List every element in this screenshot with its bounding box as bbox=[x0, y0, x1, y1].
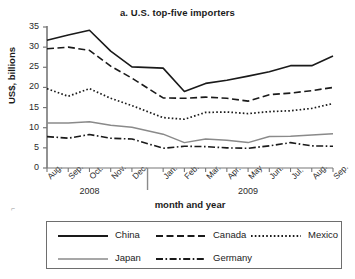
legend: China Canada Mexico Japan Germany bbox=[46, 221, 342, 269]
legend-line-canada bbox=[155, 230, 207, 242]
stray-mark: ⌐ bbox=[11, 205, 15, 212]
legend-swatch-china bbox=[57, 228, 109, 240]
legend-label-canada: Canada bbox=[213, 229, 246, 240]
legend-swatch-japan bbox=[57, 251, 109, 263]
x-axis-label: month and year bbox=[40, 199, 340, 210]
legend-line-mexico bbox=[250, 230, 302, 242]
legend-swatch-mexico bbox=[250, 228, 302, 240]
legend-label-germany: Germany bbox=[213, 252, 252, 263]
legend-swatch-canada bbox=[155, 228, 207, 240]
legend-swatch-germany bbox=[155, 251, 207, 263]
legend-line-japan bbox=[57, 253, 109, 265]
legend-item-canada: Canada bbox=[155, 222, 246, 246]
legend-label-mexico: Mexico bbox=[308, 229, 338, 240]
legend-item-china: China bbox=[57, 222, 140, 246]
legend-item-japan: Japan bbox=[57, 245, 141, 269]
legend-item-germany: Germany bbox=[155, 245, 252, 269]
series-line-canada bbox=[47, 47, 333, 101]
series-line-japan bbox=[47, 122, 333, 143]
legend-line-germany bbox=[155, 253, 207, 265]
legend-line-china bbox=[57, 230, 109, 242]
series-line-china bbox=[47, 30, 333, 91]
legend-label-china: China bbox=[115, 229, 140, 240]
chart-figure: a. U.S. top-five importers US$, billions… bbox=[0, 0, 355, 279]
legend-item-mexico: Mexico bbox=[250, 222, 338, 246]
legend-row-2: Japan Germany bbox=[47, 245, 343, 269]
legend-label-japan: Japan bbox=[115, 252, 141, 263]
legend-row-1: China Canada Mexico bbox=[47, 222, 343, 246]
